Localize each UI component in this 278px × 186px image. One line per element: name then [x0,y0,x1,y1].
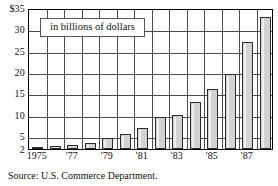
y-axis-tick-label: 5 [0,132,25,142]
chart-title-box: in billions of dollars [40,18,145,37]
x-axis-tick-label: '81 [136,150,148,161]
y-axis-tick-label: 15 [0,89,25,99]
bar [172,115,183,149]
y-axis-tick-label: 10 [0,111,25,121]
bar [102,138,113,149]
bar [120,134,131,149]
y-axis-tick-label: 20 [0,68,25,78]
y-axis-tick-label: 30 [0,25,25,35]
bar [50,146,61,149]
y-axis-tick-label: 2 [0,145,25,155]
bar [137,128,148,149]
chart-title-label: in billions of dollars [50,21,135,32]
x-axis-tick-label: '79 [101,150,113,161]
bar [32,147,43,149]
bar [242,42,253,149]
y-axis-tick-label: 25 [0,47,25,57]
x-axis-tick-label: '87 [241,150,253,161]
source-note: Source: U.S. Commerce Department. [8,170,157,181]
bar [85,143,96,149]
bar [155,117,166,149]
x-axis: 1975'77'79'81'83'85'87 [28,150,273,164]
y-axis-tick-label: $35 [0,4,25,14]
bar [190,102,201,149]
bar [260,17,271,149]
bar-chart-figure: $35302520151052 in billions of dollars 1… [0,0,278,186]
bar [207,89,218,149]
x-axis-tick-label: '85 [206,150,218,161]
x-axis-tick-label: '83 [171,150,183,161]
y-axis: $35302520151052 [0,0,28,160]
bar [225,74,236,149]
bar [67,145,78,149]
x-axis-tick-label: 1975 [27,150,47,161]
x-axis-tick-label: '77 [66,150,78,161]
